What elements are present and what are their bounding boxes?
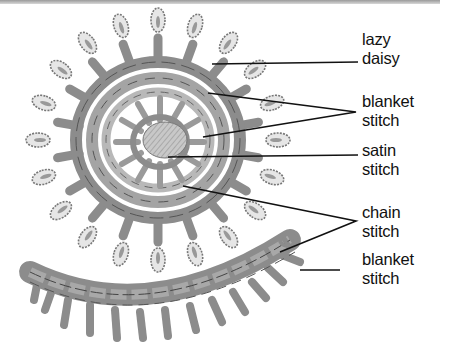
label-blanket-stitch-bottom: blanket stitch [362,250,414,288]
label-line: satin [362,141,399,160]
label-line: blanket [362,92,414,111]
satin-centre [143,122,187,158]
label-line: stitch [362,111,414,130]
label-satin-stitch: satin stitch [362,141,399,179]
label-chain-stitch: chain stitch [362,203,400,241]
label-line: chain [362,203,400,222]
label-blanket-stitch-top: blanket stitch [362,92,414,130]
label-lazy-daisy: lazy daisy [362,30,400,68]
label-line: lazy [362,30,400,49]
label-line: stitch [362,269,414,288]
label-line: stitch [362,222,400,241]
label-line: blanket [362,250,414,269]
label-line: daisy [362,49,400,68]
label-line: stitch [362,160,399,179]
